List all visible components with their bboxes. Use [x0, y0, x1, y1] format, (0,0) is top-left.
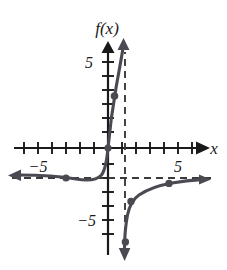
left-branch-arrowhead-left: [8, 170, 21, 182]
x-tick-label-5: 5: [174, 158, 182, 175]
y-axis-arrowhead: [102, 41, 115, 53]
right-branch-arrowhead-down: [119, 248, 131, 261]
x-axis-group: −5 5 x: [14, 139, 218, 175]
y-axis-group: 5 −5 f(x): [77, 19, 119, 255]
left-branch-arrowhead-up: [118, 38, 130, 50]
left-branch-group: [8, 38, 130, 182]
marked-point: [165, 180, 172, 187]
marked-point: [104, 144, 111, 151]
x-axis-arrowhead: [196, 142, 210, 155]
marked-point: [111, 92, 119, 100]
asymptote-group: [12, 52, 212, 258]
y-axis-label: f(x): [95, 19, 119, 38]
x-axis-label: x: [209, 139, 218, 158]
right-branch-arrowhead-right: [199, 175, 211, 185]
function-graph: −5 5 x 5 −5: [0, 0, 227, 270]
y-tick-label-5: 5: [85, 54, 93, 71]
plot-canvas: −5 5 x 5 −5: [0, 0, 227, 270]
right-branch-curve: [125, 180, 202, 248]
right-branch-group: [119, 175, 211, 262]
marked-point: [127, 198, 134, 205]
y-tick-label-neg5: −5: [77, 212, 96, 229]
marked-point: [62, 174, 69, 181]
x-tick-label-neg5: −5: [29, 158, 48, 175]
marked-point: [122, 238, 129, 245]
